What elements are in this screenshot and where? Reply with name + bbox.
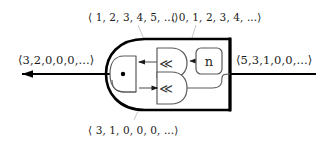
label-bottom-stream: ⟨ 3, 1, 0, 0, 0, ...⟩ xyxy=(88,124,178,136)
n-multiplier-glyph: n xyxy=(205,54,214,69)
label-top-right-stream: ⟨ 0, 1, 2, 3, 4, ...⟩ xyxy=(171,11,261,23)
label-top-left-stream: ⟨ 1, 2, 3, 4, 5, ...⟩ xyxy=(88,11,178,23)
product-dot-icon xyxy=(121,72,125,76)
label-input-stream: ⟨5,3,1,0,0,...⟩ xyxy=(236,53,312,67)
shift-lower-glyph: ≪ xyxy=(159,81,173,96)
label-output-stream: ⟨3,2,0,0,0,...⟩ xyxy=(18,53,94,67)
shift-upper-glyph: ≪ xyxy=(159,56,173,71)
diagram-canvas: ≪ ≪ n ⟨ 1, 2, 3, 4, 5, ...⟩ ⟨ 0, xyxy=(0,0,324,150)
output-arrowhead xyxy=(22,70,33,78)
